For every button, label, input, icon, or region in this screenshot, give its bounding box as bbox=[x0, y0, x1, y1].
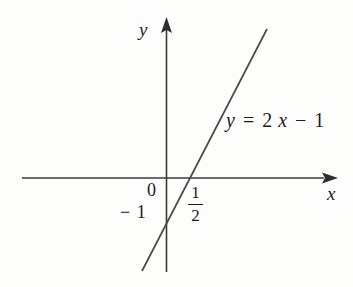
x-intercept-tick-label: 1 2 bbox=[188, 184, 203, 225]
equation-annotation: y = 2 x − 1 bbox=[226, 110, 325, 130]
fraction-numerator: 1 bbox=[189, 184, 202, 203]
fraction-denominator: 2 bbox=[189, 206, 202, 225]
line-series-y-equals-2x-minus-1 bbox=[142, 29, 267, 271]
graph-figure: y x 0 − 1 1 2 y = 2 x − 1 bbox=[0, 0, 353, 287]
origin-label: 0 bbox=[147, 181, 156, 199]
equation-lhs: y bbox=[226, 109, 235, 131]
x-axis-arrow-icon bbox=[322, 173, 338, 184]
x-axis bbox=[22, 173, 338, 184]
equation-constant: 1 bbox=[314, 109, 325, 131]
fraction-bar bbox=[188, 204, 203, 205]
y-intercept-tick-label: − 1 bbox=[120, 203, 147, 221]
x-axis-label: x bbox=[327, 184, 335, 203]
equation-equals-sign: = bbox=[241, 109, 257, 131]
y-axis-label: y bbox=[139, 20, 147, 39]
equation-coefficient: 2 bbox=[262, 109, 273, 131]
equation-minus-sign: − bbox=[293, 109, 309, 131]
y-axis bbox=[161, 17, 172, 272]
coordinate-plane-svg bbox=[0, 0, 353, 287]
equation-variable: x bbox=[278, 109, 287, 131]
